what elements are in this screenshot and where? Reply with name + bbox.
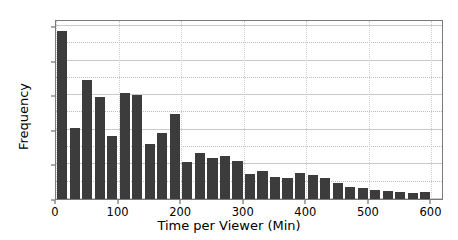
histogram-bars: [56, 21, 442, 199]
histogram-bar: [308, 175, 318, 199]
histogram-bar: [232, 161, 242, 199]
histogram-bar: [370, 190, 380, 199]
histogram-bar: [95, 97, 105, 199]
x-axis-tick-mark: [305, 200, 306, 204]
y-axis-tick-mark: [51, 130, 55, 131]
histogram-bar: [57, 31, 67, 199]
x-axis-tick-mark: [180, 200, 181, 204]
x-axis-tick-mark: [430, 200, 431, 204]
histogram-bar: [207, 158, 217, 199]
histogram-bar: [395, 192, 405, 199]
y-axis-tick-mark: [51, 165, 55, 166]
histogram-bar: [195, 153, 205, 199]
histogram-bar: [333, 183, 343, 199]
x-axis-tick-label: 600: [419, 207, 441, 219]
histogram-bar: [345, 187, 355, 199]
histogram-bar: [182, 162, 192, 199]
histogram-bar: [270, 177, 280, 200]
x-axis-tick-label: 100: [107, 207, 129, 219]
histogram-bar: [157, 133, 167, 199]
x-axis-tick-label: 0: [51, 207, 58, 219]
y-axis-tick-mark: [51, 61, 55, 62]
histogram-bar: [170, 114, 180, 199]
histogram-bar: [120, 93, 130, 199]
x-axis-tick-label: 200: [169, 207, 191, 219]
histogram-bar: [70, 128, 80, 199]
y-axis-tick-mark: [51, 96, 55, 97]
histogram-bar: [82, 80, 92, 199]
plot-area: [55, 20, 443, 200]
x-axis-tick-label: 500: [357, 207, 379, 219]
histogram-bar: [383, 191, 393, 199]
histogram-bar: [282, 178, 292, 199]
y-axis-label: Frequency: [17, 42, 30, 192]
x-axis-tick-label: 400: [294, 207, 316, 219]
x-axis-tick-mark: [367, 200, 368, 204]
histogram-bar: [132, 95, 142, 199]
histogram-bar: [145, 144, 155, 199]
histogram-bar: [358, 188, 368, 199]
histogram-figure: Frequency Time per Viewer (Min) 01002003…: [0, 0, 458, 240]
y-axis-tick-mark: [51, 26, 55, 27]
histogram-bar: [420, 192, 430, 199]
histogram-bar: [220, 156, 230, 199]
histogram-bar: [320, 178, 330, 199]
histogram-bar: [408, 193, 418, 199]
histogram-bar: [257, 171, 267, 199]
histogram-bar: [245, 174, 255, 199]
x-axis-label: Time per Viewer (Min): [0, 219, 458, 232]
histogram-bar: [295, 173, 305, 199]
x-axis-tick-mark: [242, 200, 243, 204]
x-axis-tick-label: 300: [232, 207, 254, 219]
x-axis-tick-mark: [55, 200, 56, 204]
histogram-bar: [107, 136, 117, 199]
x-axis-tick-mark: [117, 200, 118, 204]
